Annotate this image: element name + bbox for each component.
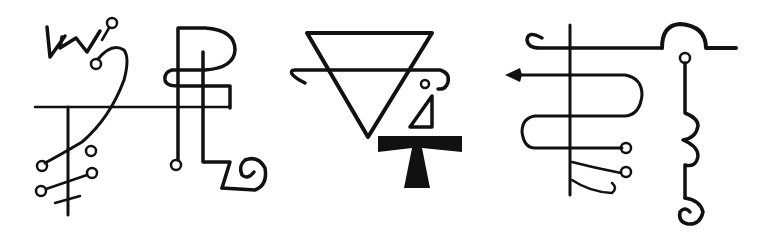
wedge-icon: [410, 96, 432, 127]
spiral-right-icon: [680, 198, 703, 224]
p-loop: [165, 28, 235, 160]
sigil-drawing: [0, 0, 768, 235]
circle-mid-icon: [91, 59, 101, 69]
sigil-right: [505, 24, 736, 224]
sigil-center: [291, 33, 462, 188]
sigils-svg: [0, 0, 768, 235]
w-glyph-icon: [47, 27, 100, 57]
circle-top-icon: [107, 18, 117, 28]
serpentine-line: [520, 75, 642, 148]
l-stroke: [203, 52, 230, 188]
three-curves-icon: [683, 63, 698, 198]
sweep-curve: [45, 47, 127, 163]
sigil-left: [35, 18, 266, 215]
arch-icon: [662, 24, 736, 48]
tau-cross-icon: [378, 136, 462, 188]
